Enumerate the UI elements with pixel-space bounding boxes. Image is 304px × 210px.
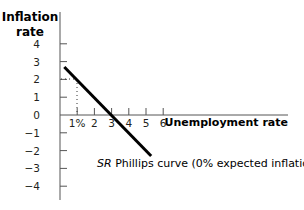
y-tick-label: −4	[25, 180, 41, 192]
y-tick-label: −2	[25, 145, 40, 157]
y-tick-label: −3	[25, 162, 40, 174]
y-tick-label: 2	[33, 73, 40, 85]
x-axis-title: Unemployment rate	[165, 116, 288, 129]
y-tick-label: 0	[33, 109, 40, 121]
y-tick-label: 4	[33, 38, 40, 50]
curve-label: SR Phillips curve (0% expected inflation…	[97, 157, 304, 170]
x-tick-label: 1%	[69, 117, 86, 129]
y-tick-label: 3	[33, 56, 40, 68]
y-axis-title-line1: Inflation	[2, 10, 59, 24]
curve-label-sr: SR	[97, 157, 112, 170]
x-ticks: 1%23456	[69, 108, 167, 129]
y-tick-label: 1	[33, 91, 40, 103]
curve-label-rest: Phillips curve (0% expected inflation)	[112, 157, 304, 170]
x-tick-label: 4	[125, 117, 132, 129]
x-tick-label: 2	[91, 117, 98, 129]
phillips-curve-chart: Inflation rate 43210−1−2−3−4 1%23456 Une…	[0, 0, 304, 210]
x-tick-label: 5	[143, 117, 150, 129]
y-tick-label: −1	[25, 127, 40, 139]
